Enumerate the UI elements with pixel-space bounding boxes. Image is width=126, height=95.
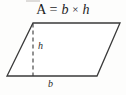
base-label: b xyxy=(48,79,53,89)
parallelogram-drawing xyxy=(0,0,126,95)
height-label: h xyxy=(38,41,43,51)
parallelogram-area-figure: A = b × h h b xyxy=(0,0,126,95)
parallelogram-outline xyxy=(7,23,120,76)
